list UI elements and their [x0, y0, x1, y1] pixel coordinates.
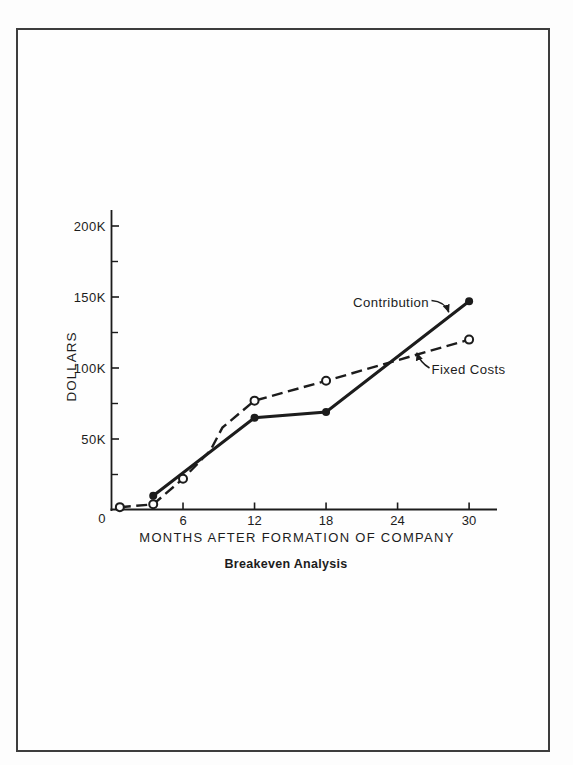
- breakeven-chart: 050K100K150K200K612182430ContributionFix…: [0, 0, 573, 765]
- data-point-fixed-costs: [149, 500, 157, 508]
- y-tick-label: 200K: [74, 219, 106, 234]
- data-point-fixed-costs: [251, 397, 259, 405]
- x-tick-label: 18: [319, 513, 333, 528]
- x-tick-label: 6: [179, 513, 186, 528]
- series-label-fixed-costs: Fixed Costs: [432, 362, 506, 377]
- y-axis-title: DOLLARS: [64, 267, 79, 467]
- data-point-contribution: [465, 297, 473, 305]
- data-point-contribution: [322, 408, 330, 416]
- x-tick-label: 12: [247, 513, 261, 528]
- data-point-fixed-costs: [116, 503, 124, 511]
- data-point-contribution: [251, 414, 259, 422]
- y-tick-label: 50K: [81, 432, 106, 447]
- series-label-arrow-contribution: [432, 301, 449, 313]
- data-point-fixed-costs: [179, 475, 187, 483]
- x-axis-title: MONTHS AFTER FORMATION OF COMPANY: [97, 530, 497, 545]
- x-tick-label: 30: [462, 513, 476, 528]
- series-label-contribution: Contribution: [353, 295, 429, 310]
- series-line-contribution: [153, 301, 469, 496]
- data-point-fixed-costs: [465, 336, 473, 344]
- chart-caption: Breakeven Analysis: [136, 557, 436, 571]
- y-tick-label: 0: [98, 511, 106, 526]
- data-point-contribution: [149, 492, 157, 500]
- scanned-document-page: 050K100K150K200K612182430ContributionFix…: [0, 0, 573, 765]
- data-point-fixed-costs: [322, 377, 330, 385]
- x-tick-label: 24: [390, 513, 404, 528]
